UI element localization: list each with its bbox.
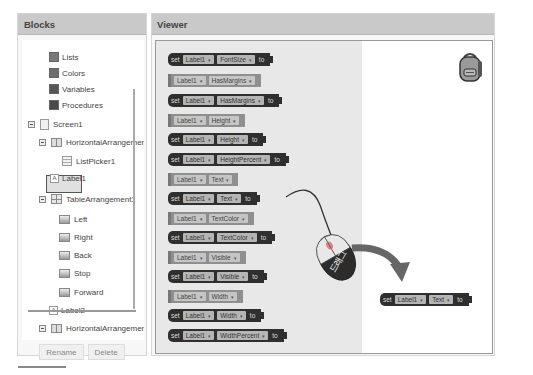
component-dropdown[interactable]: Label1▾ bbox=[183, 194, 215, 203]
delete-button[interactable]: Delete bbox=[88, 344, 125, 360]
listpicker-icon bbox=[62, 156, 72, 166]
property-dropdown[interactable]: TextColor▾ bbox=[217, 233, 256, 242]
tree-item-button1[interactable]: Button1 bbox=[59, 339, 102, 340]
tree-item-label: Back bbox=[74, 251, 92, 260]
property-dropdown[interactable]: Height▾ bbox=[209, 116, 240, 125]
component-dropdown[interactable]: Label1▾ bbox=[174, 116, 206, 125]
set-text-block[interactable]: setLabel1▾Text▾to bbox=[380, 293, 469, 306]
property-dropdown[interactable]: WidthPercent▾ bbox=[217, 331, 268, 340]
property-dropdown-text: Text bbox=[220, 195, 232, 202]
dropdown-arrow-icon: ▾ bbox=[200, 294, 203, 300]
component-dropdown[interactable]: Label1▾ bbox=[174, 175, 206, 184]
tree-item-screen1[interactable]: Screen1 bbox=[28, 117, 83, 131]
property-dropdown[interactable]: Visible▾ bbox=[217, 272, 248, 281]
set-text-block[interactable]: setLabel1▾Text▾to bbox=[168, 192, 257, 205]
collapse-toggle-icon[interactable] bbox=[39, 196, 46, 203]
component-dropdown[interactable]: Label1▾ bbox=[183, 155, 215, 164]
builtin-drawer-colors[interactable]: Colors bbox=[49, 66, 85, 80]
tree-vertical-scrollbar[interactable] bbox=[133, 89, 135, 309]
button-icon bbox=[59, 288, 70, 297]
property-dropdown[interactable]: Text▾ bbox=[209, 175, 233, 184]
tree-item-tablearrangement1[interactable]: TableArrangement1 bbox=[39, 192, 136, 206]
property-dropdown-text: Height bbox=[220, 136, 239, 143]
tree-item-listpicker1[interactable]: ListPicker1 bbox=[62, 154, 115, 168]
property-dropdown[interactable]: HasMargins▾ bbox=[209, 76, 256, 85]
to-keyword: to bbox=[252, 136, 257, 143]
component-dropdown[interactable]: Label1▾ bbox=[395, 295, 427, 304]
set-hasmargins-block[interactable]: setLabel1▾HasMargins▾to bbox=[168, 94, 279, 107]
get-height-block[interactable]: Label1▾Height▾ bbox=[168, 114, 245, 127]
property-dropdown-text: FontSize bbox=[220, 56, 246, 63]
variables-icon bbox=[49, 84, 59, 94]
tree-item-label: Forward bbox=[74, 288, 103, 297]
set-height-block[interactable]: setLabel1▾Height▾to bbox=[168, 133, 263, 146]
component-dropdown[interactable]: Label1▾ bbox=[183, 96, 215, 105]
component-dropdown[interactable]: Label1▾ bbox=[183, 55, 215, 64]
to-keyword: to bbox=[259, 56, 264, 63]
property-dropdown[interactable]: Text▾ bbox=[217, 194, 241, 203]
property-dropdown[interactable]: HeightPercent▾ bbox=[217, 155, 270, 164]
component-dropdown[interactable]: Label1▾ bbox=[183, 135, 215, 144]
property-dropdown[interactable]: Width▾ bbox=[209, 292, 238, 301]
get-hasmargins-block[interactable]: Label1▾HasMargins▾ bbox=[168, 74, 261, 87]
tree-item-forward[interactable]: Forward bbox=[59, 285, 103, 299]
get-text-block[interactable]: Label1▾Text▾ bbox=[168, 173, 238, 186]
dropped-block[interactable]: setLabel1▾Text▾to bbox=[380, 293, 469, 306]
tree-item-stop[interactable]: Stop bbox=[59, 266, 90, 280]
backpack-icon[interactable] bbox=[456, 51, 484, 83]
component-dropdown[interactable]: Label1▾ bbox=[174, 292, 206, 301]
tree-item-label1[interactable]: ALabel1 bbox=[50, 171, 86, 185]
viewer-panel: Viewer setLabel1▾FontSize▾toLabel1▾HasMa… bbox=[151, 13, 495, 356]
property-dropdown[interactable]: HasMargins▾ bbox=[217, 96, 264, 105]
collapse-toggle-icon[interactable] bbox=[39, 139, 46, 146]
collapse-toggle-icon[interactable] bbox=[39, 325, 46, 332]
set-textcolor-block[interactable]: setLabel1▾TextColor▾to bbox=[168, 231, 272, 244]
collapse-toggle-icon[interactable] bbox=[28, 121, 35, 128]
component-dropdown[interactable]: Label1▾ bbox=[183, 272, 215, 281]
tree-item-right[interactable]: Right bbox=[59, 230, 93, 244]
builtin-drawer-variables[interactable]: Variables bbox=[49, 82, 95, 96]
get-textcolor-block[interactable]: Label1▾TextColor▾ bbox=[168, 212, 254, 225]
blocks-panel-title: Blocks bbox=[18, 14, 146, 35]
set-widthpercent-block[interactable]: setLabel1▾WidthPercent▾to bbox=[168, 329, 284, 342]
drawer-label: Procedures bbox=[62, 101, 103, 110]
blocks-workspace[interactable]: setLabel1▾FontSize▾toLabel1▾HasMargins▾s… bbox=[155, 40, 493, 354]
tree-item-left[interactable]: Left bbox=[59, 212, 87, 226]
tree-horizontal-scrollbar[interactable] bbox=[28, 310, 136, 312]
get-width-block[interactable]: Label1▾Width▾ bbox=[168, 290, 243, 303]
tree-item-back[interactable]: Back bbox=[59, 248, 92, 262]
to-keyword: to bbox=[261, 234, 266, 241]
rename-button[interactable]: Rename bbox=[39, 344, 83, 360]
component-dropdown[interactable]: Label1▾ bbox=[183, 233, 215, 242]
property-dropdown[interactable]: Height▾ bbox=[217, 135, 248, 144]
builtin-drawer-procedures[interactable]: Procedures bbox=[49, 98, 103, 112]
dropdown-arrow-icon: ▾ bbox=[235, 196, 238, 202]
component-dropdown[interactable]: Label1▾ bbox=[174, 76, 206, 85]
dropdown-arrow-icon: ▾ bbox=[200, 177, 203, 183]
dropdown-arrow-icon: ▾ bbox=[258, 98, 261, 104]
property-dropdown[interactable]: TextColor▾ bbox=[209, 214, 248, 223]
tree-item-horizontalarrangement2[interactable]: HorizontalArrangement2 bbox=[39, 321, 144, 335]
set-heightpercent-block[interactable]: setLabel1▾HeightPercent▾to bbox=[168, 153, 286, 166]
component-dropdown[interactable]: Label1▾ bbox=[183, 331, 215, 340]
set-width-block[interactable]: setLabel1▾Width▾to bbox=[168, 309, 261, 322]
builtin-drawer-lists[interactable]: Lists bbox=[49, 50, 78, 64]
property-dropdown[interactable]: Text▾ bbox=[429, 295, 453, 304]
tree-item-horizontalarrangement1[interactable]: HorizontalArrangement1 bbox=[39, 135, 144, 149]
dropdown-arrow-icon: ▾ bbox=[208, 157, 211, 163]
property-dropdown[interactable]: FontSize▾ bbox=[217, 55, 255, 64]
dropdown-arrow-icon: ▾ bbox=[200, 78, 203, 84]
component-dropdown[interactable]: Label1▾ bbox=[174, 214, 206, 223]
component-dropdown-text: Label1 bbox=[177, 293, 197, 300]
component-dropdown-text: Label1 bbox=[177, 176, 197, 183]
component-dropdown-text: Label1 bbox=[186, 56, 206, 63]
set-fontsize-block[interactable]: setLabel1▾FontSize▾to bbox=[168, 53, 270, 66]
property-dropdown[interactable]: Visible▾ bbox=[209, 253, 240, 262]
set-visible-block[interactable]: setLabel1▾Visible▾to bbox=[168, 270, 264, 283]
get-visible-block[interactable]: Label1▾Visible▾ bbox=[168, 251, 246, 264]
component-dropdown[interactable]: Label1▾ bbox=[183, 311, 215, 320]
property-dropdown[interactable]: Width▾ bbox=[217, 311, 246, 320]
to-keyword: to bbox=[250, 312, 255, 319]
colors-icon bbox=[49, 68, 59, 78]
component-dropdown[interactable]: Label1▾ bbox=[174, 253, 206, 262]
